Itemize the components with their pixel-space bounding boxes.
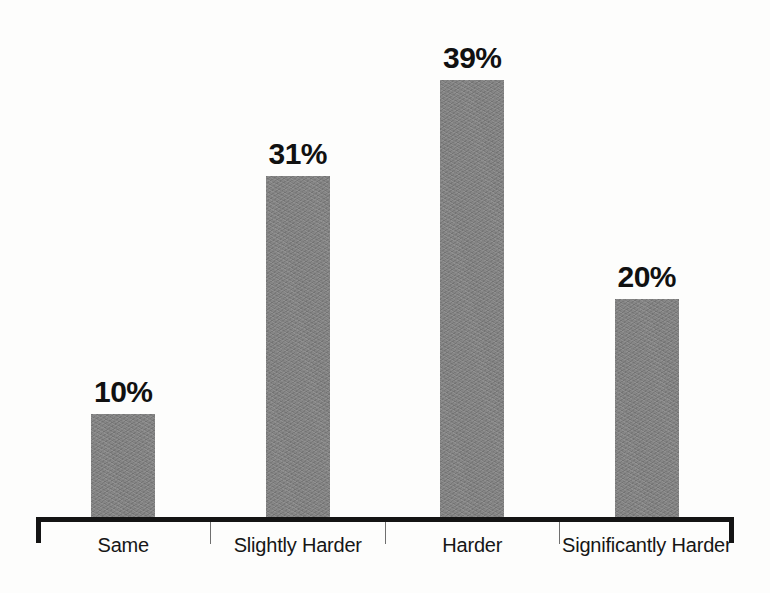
chart-page: 10% 31% 39% 20% Same Slightly Harder bbox=[0, 0, 770, 593]
bar-value-label: 31% bbox=[268, 139, 327, 169]
bar-slightly-harder[interactable] bbox=[266, 176, 330, 521]
category-label-significantly-harder: Significantly Harder bbox=[560, 528, 735, 562]
bar-slot-same: 10% bbox=[36, 0, 211, 521]
bar-harder[interactable] bbox=[440, 80, 504, 521]
category-label-same: Same bbox=[36, 528, 211, 562]
bar-slot-slightly-harder: 31% bbox=[211, 0, 386, 521]
bar-value-label: 20% bbox=[617, 262, 676, 292]
category-label-slightly-harder: Slightly Harder bbox=[211, 528, 386, 562]
bar-same[interactable] bbox=[91, 414, 155, 521]
category-label-harder: Harder bbox=[385, 528, 560, 562]
bar-slot-harder: 39% bbox=[385, 0, 560, 521]
bar-slot-significantly-harder: 20% bbox=[560, 0, 735, 521]
plot-area: 10% 31% 39% 20% bbox=[0, 0, 770, 521]
bar-value-label: 10% bbox=[94, 377, 153, 407]
bars-layer: 10% 31% 39% 20% bbox=[36, 0, 734, 521]
bar-value-label: 39% bbox=[443, 43, 502, 73]
bar-significantly-harder[interactable] bbox=[615, 299, 679, 521]
x-axis-category-labels: Same Slightly Harder Harder Significantl… bbox=[36, 528, 734, 568]
